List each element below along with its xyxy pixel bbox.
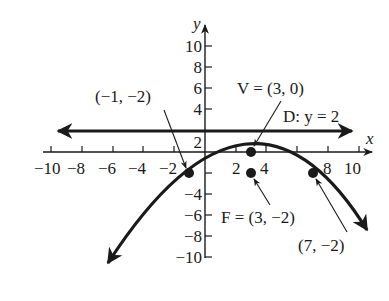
focus-label: F = (3, −2) (221, 208, 295, 227)
svg-text:−8: −8 (184, 227, 202, 246)
svg-text:10: 10 (344, 159, 361, 178)
svg-text:−4: −4 (128, 159, 147, 178)
svg-text:−6: −6 (98, 159, 116, 178)
focus-leader (254, 179, 270, 205)
x-axis-label: x (365, 129, 374, 148)
svg-text:2: 2 (194, 133, 203, 152)
left-point-label: (−1, −2) (95, 87, 151, 106)
focus-point (246, 168, 256, 178)
vertex-point (246, 147, 256, 157)
right-point-leader (316, 179, 347, 232)
svg-text:−4: −4 (184, 185, 203, 204)
svg-text:−8: −8 (67, 159, 85, 178)
parabola-graph: y x −10 −8 −6 −4 −2 2 4 8 10 10 8 6 4 2 … (0, 0, 389, 301)
svg-text:2: 2 (232, 159, 241, 178)
directrix-label: D: y = 2 (283, 107, 339, 126)
svg-text:4: 4 (260, 159, 269, 178)
right-point (308, 168, 318, 178)
left-point (184, 168, 194, 178)
svg-text:−2: −2 (159, 159, 177, 178)
vertex-label: V = (3, 0) (237, 79, 304, 98)
svg-text:8: 8 (194, 58, 203, 77)
svg-text:10: 10 (185, 37, 202, 56)
right-point-label: (7, −2) (298, 236, 344, 255)
vertex-leader (254, 101, 281, 146)
svg-text:−10: −10 (34, 159, 61, 178)
svg-text:4: 4 (194, 100, 203, 119)
y-axis-label: y (191, 14, 201, 33)
svg-text:−6: −6 (184, 206, 202, 225)
svg-text:6: 6 (194, 79, 203, 98)
svg-text:−10: −10 (175, 248, 202, 267)
